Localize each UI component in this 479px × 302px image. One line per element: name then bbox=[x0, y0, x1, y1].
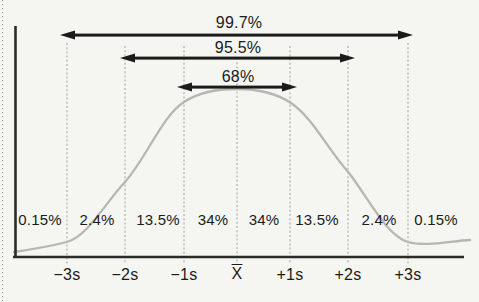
segment-pct-2: 2.4% bbox=[80, 212, 115, 227]
interval-label-99-7: 99.7% bbox=[216, 15, 262, 31]
segment-pct-8: 0.15% bbox=[414, 212, 458, 227]
normal-distribution-diagram: 99.7% 95.5% 68% 0.15% 2.4% 13.5% 34% 34%… bbox=[0, 0, 479, 302]
segment-pct-7: 2.4% bbox=[362, 212, 397, 227]
arrow-shaft bbox=[132, 57, 344, 60]
tick-label-plus-1s: +1s bbox=[277, 267, 304, 283]
tick-label-plus-3s: +3s bbox=[395, 267, 422, 283]
arrow-head-right bbox=[398, 31, 413, 40]
segment-pct-4: 34% bbox=[198, 212, 229, 227]
tick-label-minus-1s: −1s bbox=[171, 267, 198, 283]
segment-pct-1: 0.15% bbox=[18, 212, 62, 227]
segment-pct-5: 34% bbox=[249, 212, 280, 227]
interval-label-95-5: 95.5% bbox=[215, 40, 261, 56]
segment-pct-6: 13.5% bbox=[295, 212, 339, 227]
tick-label-minus-3s: −3s bbox=[54, 267, 81, 283]
segment-pct-3: 13.5% bbox=[136, 212, 180, 227]
interval-label-68: 68% bbox=[222, 69, 255, 85]
tick-label-plus-2s: +2s bbox=[335, 267, 362, 283]
tick-label-minus-2s: −2s bbox=[112, 267, 139, 283]
arrow-head-left bbox=[120, 54, 135, 63]
arrow-shaft bbox=[73, 34, 403, 37]
tick-label-mean: X bbox=[232, 266, 243, 282]
arrow-shaft bbox=[189, 86, 286, 89]
arrow-head-left bbox=[60, 31, 75, 40]
